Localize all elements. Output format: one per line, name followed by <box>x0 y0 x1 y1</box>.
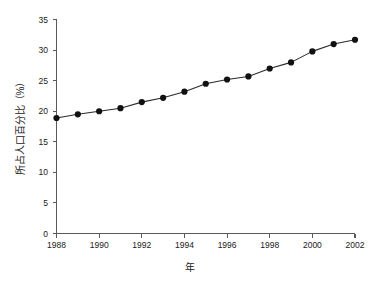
x-tick-label-1996: 1996 <box>218 240 237 250</box>
data-point <box>181 89 187 95</box>
x-tick-label-1990: 1990 <box>90 240 109 250</box>
x-tick-label-2002: 2002 <box>346 240 365 250</box>
x-axis-title: 年 <box>185 261 195 273</box>
x-tick-label-1994: 1994 <box>175 240 194 250</box>
x-tick-label-1998: 1998 <box>260 240 279 250</box>
y-axis-ticks <box>53 20 57 234</box>
data-point <box>96 108 102 114</box>
data-point <box>288 59 294 65</box>
data-point <box>352 37 358 43</box>
data-point <box>245 73 251 79</box>
data-point <box>117 105 123 111</box>
data-point <box>309 48 315 54</box>
y-axis-title: 所占人口百分比（%） <box>14 77 26 176</box>
data-point <box>331 41 337 47</box>
line-chart: 0 5 10 15 20 25 30 35 1988 1990 1992 199… <box>0 0 380 281</box>
series-group <box>53 37 358 121</box>
x-tick-label-1988: 1988 <box>47 240 66 250</box>
x-axis-ticks <box>57 234 356 238</box>
data-point <box>53 115 59 121</box>
data-point <box>224 76 230 82</box>
y-axis-tick-labels: 0 5 10 15 20 25 30 35 <box>39 15 49 239</box>
y-tick-label-15: 15 <box>39 137 49 147</box>
y-tick-label-10: 10 <box>39 167 49 177</box>
chart-figure: 0 5 10 15 20 25 30 35 1988 1990 1992 199… <box>0 0 380 281</box>
data-point <box>160 95 166 101</box>
data-point <box>267 65 273 71</box>
data-point <box>203 81 209 87</box>
y-tick-label-20: 20 <box>39 106 49 116</box>
data-point <box>75 111 81 117</box>
x-tick-label-1992: 1992 <box>132 240 151 250</box>
y-tick-label-25: 25 <box>39 76 49 86</box>
y-tick-label-35: 35 <box>39 15 49 25</box>
data-point <box>139 99 145 105</box>
y-tick-label-5: 5 <box>43 198 48 208</box>
x-axis-tick-labels: 1988 1990 1992 1994 1996 1998 2000 2002 <box>47 240 365 250</box>
x-tick-label-2000: 2000 <box>303 240 322 250</box>
y-tick-label-0: 0 <box>43 229 48 239</box>
y-tick-label-30: 30 <box>39 45 49 55</box>
series-markers <box>53 37 358 121</box>
